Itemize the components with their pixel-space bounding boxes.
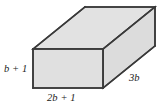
prism-drawing xyxy=(0,0,163,110)
dimension-label-width: 2b + 1 xyxy=(47,93,76,104)
dimension-label-depth: 3b xyxy=(129,73,140,84)
prism-front-face xyxy=(33,49,103,88)
rectangular-prism-figure: b + 1 2b + 1 3b xyxy=(0,0,163,110)
dimension-label-height: b + 1 xyxy=(4,64,27,75)
